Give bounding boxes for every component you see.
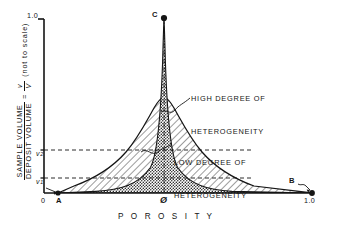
y-tick-label-1: 1.0 xyxy=(27,11,38,20)
y-axis-label-suffix: (not to scale) xyxy=(20,23,29,77)
y-axis-ratio: vV xyxy=(16,81,33,91)
y-tick-label-v1-sub: 1 xyxy=(40,179,44,185)
point-C-label: C xyxy=(152,10,158,19)
y-axis-label-equals: = xyxy=(20,94,29,99)
y-tick-label-v2: v2 xyxy=(31,143,44,157)
annotation-low-heterogeneity-line2: HETEROGENEITY xyxy=(174,191,247,202)
point-B-leader xyxy=(298,184,310,190)
point-B-label: B xyxy=(289,176,295,185)
x-axis-label: P O R O S I T Y xyxy=(118,212,215,221)
porosity-sample-volume-chart xyxy=(0,0,342,235)
point-C xyxy=(161,15,167,21)
mean-porosity-label: Ø xyxy=(160,195,168,205)
y-axis-ratio-denominator: V xyxy=(25,81,33,91)
point-A-label: A xyxy=(56,196,62,205)
annotation-high-heterogeneity-line1: HIGH DEGREE OF xyxy=(191,94,266,105)
y-axis-label-denominator: DEPOSIT VOLUME xyxy=(25,102,33,180)
y-axis-label-fraction: SAMPLE VOLUME DEPOSIT VOLUME xyxy=(16,102,34,180)
annotation-high-heterogeneity-line2: HETEROGENEITY xyxy=(191,127,266,138)
point-A-leader xyxy=(46,188,56,192)
y-tick-label-v1: v1 xyxy=(31,171,44,185)
annotation-low-heterogeneity-line1: LOW DEGREE OF xyxy=(174,158,247,169)
origin-label-0: 0 xyxy=(41,196,45,205)
annotation-low-heterogeneity: LOW DEGREE OF HETEROGENEITY xyxy=(174,137,247,212)
y-tick-label-v2-sub: 2 xyxy=(40,151,44,157)
x-tick-label-1: 1.0 xyxy=(304,196,315,205)
